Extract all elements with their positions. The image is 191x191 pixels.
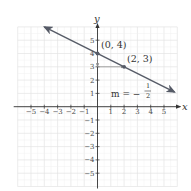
point-label-2-3: (2, 3) [127,53,153,64]
x-tick-label: −2 [66,108,76,116]
x-tick-label: −5 [26,108,36,116]
labels: x y (0, 4) (2, 3) m = − 1 2 [93,13,188,112]
y-tick-label: 2 [90,77,94,85]
x-tick-label: 2 [122,108,126,116]
y-tick-label: −5 [84,170,94,178]
y-tick-label: 5 [90,37,94,45]
point-marker [96,52,100,56]
x-tick-label: 1 [109,108,113,116]
y-tick-label: 3 [90,63,94,71]
x-tick-label: −3 [52,108,62,116]
y-axis-label: y [93,13,100,24]
x-tick-label: −4 [39,108,50,116]
x-axis-label: x [182,101,188,112]
line-series [44,27,174,92]
y-tick-label: −3 [84,143,94,151]
point-marker [122,65,126,69]
y-tick-label: 1 [90,90,94,98]
axes [14,24,181,189]
coordinate-plane: −5−4−3−2−112345−5−4−3−2−112345 x y (0, 4… [0,0,191,191]
slope-numerator: 1 [146,82,150,90]
x-tick-label: 5 [162,108,166,116]
slope-label: m = − [111,89,140,99]
x-tick-label: −1 [79,108,89,116]
y-tick-label: −4 [84,156,95,164]
series [44,27,174,92]
y-tick-label: −1 [84,117,94,125]
slope-denominator: 2 [146,92,150,100]
y-tick-label: −2 [84,130,94,138]
x-tick-label: 3 [135,108,139,116]
x-tick-label: 4 [148,108,153,116]
point-label-0-4: (0, 4) [101,39,127,50]
